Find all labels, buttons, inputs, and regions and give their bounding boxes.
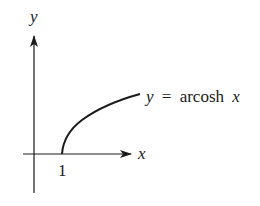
curve-label-y: y	[144, 87, 154, 106]
curve-label-fn: arcosh	[180, 87, 225, 106]
x-tick-label-1: 1	[58, 161, 67, 180]
arcosh-curve	[62, 94, 140, 154]
y-axis-label: y	[28, 7, 38, 26]
curve-label-eq: =	[162, 87, 172, 106]
curve-label-x: x	[231, 87, 240, 106]
arcosh-graph: y x 1 y = arcosh x	[0, 0, 260, 206]
x-axis-label: x	[137, 144, 146, 163]
curve-label: y = arcosh x	[144, 87, 240, 106]
